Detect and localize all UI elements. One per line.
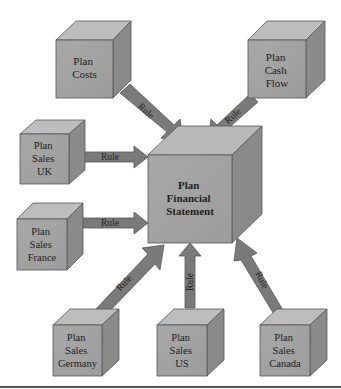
rule-arrow-uk: Rule [81, 146, 148, 168]
rule-label: Rule [101, 152, 119, 162]
rule-arrow-france: Rule [82, 212, 148, 234]
rule-arrow-germany: Rule [94, 245, 164, 319]
cube-plan-costs[interactable]: Plan Costs [56, 21, 131, 98]
cube-plan-sales-germany[interactable]: Plan Sales Germany [53, 309, 119, 376]
cube-plan-sales-france[interactable]: Plan Sales France [17, 203, 83, 270]
diagram-canvas: Rule Rule Rule Rule Rule Rule Rule Plan … [0, 0, 341, 389]
cube-label: Plan Cash Flow [265, 51, 290, 89]
cube-plan-sales-uk[interactable]: Plan Sales UK [20, 120, 85, 184]
bottom-divider [0, 386, 341, 388]
rule-label: Rule [101, 218, 119, 228]
cube-plan-sales-canada[interactable]: Plan Sales Canada [260, 309, 327, 376]
rule-arrow-us: Rule [179, 243, 201, 308]
cube-plan-financial-statement[interactable]: Plan Financial Statement [148, 126, 262, 243]
cube-label: Plan Costs [72, 55, 96, 80]
rule-arrow-canada: Rule [234, 238, 284, 316]
cube-plan-cash-flow[interactable]: Plan Cash Flow [248, 21, 325, 98]
cube-plan-sales-us[interactable]: Plan Sales US [157, 309, 224, 376]
cube-label: Plan Sales France [28, 226, 57, 263]
rule-label: Rule [185, 273, 195, 291]
